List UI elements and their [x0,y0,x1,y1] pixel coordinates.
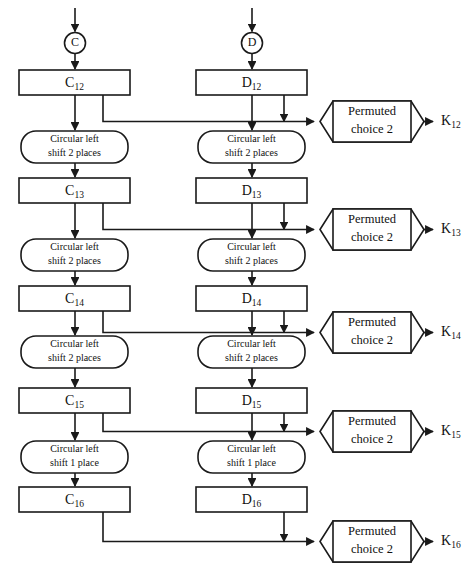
permuted-choice-2-box: Permutedchoice 2 [320,101,424,142]
shift-label-line2: shift 2 places [48,255,101,266]
shift-box: Circular leftshift 2 places [198,336,305,368]
shift-box: Circular leftshift 2 places [21,239,128,271]
permuted-choice-2-box: Permutedchoice 2 [320,411,424,452]
shift-label-line1: Circular left [227,133,276,144]
c16-tap-to-pc2 [103,512,314,542]
pc2-label-line2: choice 2 [351,230,393,244]
permuted-choice-2-box: Permutedchoice 2 [320,521,424,562]
permuted-choice-2-box: Permutedchoice 2 [320,312,424,353]
shift-box: Circular leftshift 2 places [21,336,128,368]
register-box-c13: C13 [19,178,130,203]
subkey-label-k15: K15 [441,423,461,440]
pc2-label-line1: Permuted [348,524,397,538]
shift-label-line1: Circular left [227,443,276,454]
c-tap-to-pc2 [103,95,314,122]
pc2-label-line1: Permuted [348,104,397,118]
key-text: K12 [441,113,461,130]
pc2-label-line1: Permuted [348,414,397,428]
input-node-d: D [242,33,263,54]
shift-box: Circular leftshift 1 place [21,441,128,473]
shift-label-line2: shift 1 place [50,457,99,468]
register-box-c15: C15 [19,388,130,413]
register-box-d15: D15 [196,388,307,413]
diagram-canvas: CDC12D12C13D13C14D14C15D15C16D16Circular… [0,0,473,573]
shift-label-line1: Circular left [50,241,99,252]
register-box-c12: C12 [19,70,130,95]
pc2-label-line2: choice 2 [351,432,393,446]
register-box-d14: D14 [196,286,307,311]
subkey-label-k13: K13 [441,221,461,238]
key-text: K14 [441,324,461,341]
shift-label-line1: Circular left [50,443,99,454]
shift-label-line2: shift 2 places [48,352,101,363]
pc2-label-line1: Permuted [348,315,397,329]
shift-label-line1: Circular left [50,133,99,144]
node-layer: CDC12D12C13D13C14D14C15D15C16D16Circular… [19,33,461,563]
shift-box: Circular leftshift 2 places [198,131,305,163]
shift-label-line1: Circular left [50,338,99,349]
key-text: K16 [441,533,461,550]
register-box-d12: D12 [196,70,307,95]
key-text: K13 [441,221,461,238]
shift-label-line2: shift 2 places [48,147,101,158]
c-tap-to-pc2 [103,311,314,333]
shift-box: Circular leftshift 1 place [198,441,305,473]
c-tap-to-pc2 [103,413,314,432]
permuted-choice-2-box: Permutedchoice 2 [320,209,424,250]
input-node-label: C [71,35,79,49]
subkey-label-k12: K12 [441,113,461,130]
register-box-c14: C14 [19,286,130,311]
pc2-label-line2: choice 2 [351,542,393,556]
register-box-d16: D16 [196,487,307,512]
shift-label-line2: shift 2 places [225,255,278,266]
shift-label-line1: Circular left [227,338,276,349]
register-box-d13: D13 [196,178,307,203]
input-node-label: D [248,35,257,49]
des-key-schedule-diagram: CDC12D12C13D13C14D14C15D15C16D16Circular… [0,0,473,573]
subkey-label-k14: K14 [441,324,461,341]
shift-box: Circular leftshift 2 places [21,131,128,163]
pc2-label-line2: choice 2 [351,333,393,347]
pc2-label-line2: choice 2 [351,122,393,136]
input-node-c: C [65,33,86,54]
shift-label-line2: shift 2 places [225,147,278,158]
shift-box: Circular leftshift 2 places [198,239,305,271]
subkey-label-k16: K16 [441,533,461,550]
shift-label-line2: shift 1 place [227,457,276,468]
register-box-c16: C16 [19,487,130,512]
c-tap-to-pc2 [103,203,314,230]
shift-label-line1: Circular left [227,241,276,252]
shift-label-line2: shift 2 places [225,352,278,363]
pc2-label-line1: Permuted [348,212,397,226]
key-text: K15 [441,423,461,440]
